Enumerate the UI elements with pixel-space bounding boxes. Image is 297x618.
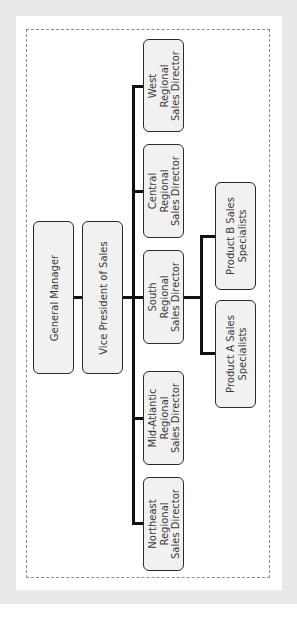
node-label-line-3: Sales Director [169, 51, 181, 121]
node-south-regional-sales-director: South Regional Sales Director [143, 250, 184, 344]
connector-central [132, 190, 143, 193]
connector-northeast [132, 522, 143, 525]
connector-producta [200, 352, 215, 355]
node-label-line-3: Sales Director [169, 156, 181, 226]
connector-midatlantic [132, 417, 143, 420]
node-label-line-1: Northeast [146, 499, 158, 548]
node-label-line-2: Specialists [236, 327, 248, 380]
node-northeast-regional-sales-director: Northeast Regional Sales Director [143, 477, 184, 571]
node-label-line-1: Mid-Atlantic [146, 388, 158, 447]
node-label-line-2: Regional [158, 502, 170, 545]
connector-productb [200, 235, 215, 238]
node-label-line-3: Sales Director [169, 383, 181, 453]
node-label: Vice President of Sales [97, 241, 109, 355]
connector-gm-vp [73, 296, 82, 299]
node-product-a-sales-specialists: Product A Sales Specialists [215, 300, 256, 408]
node-label: General Manager [48, 254, 60, 340]
node-central-regional-sales-director: Central Regional Sales Director [143, 144, 184, 238]
node-label-line-1: Product B Sales [224, 197, 236, 275]
connector-sub-trunk [200, 235, 203, 354]
connector-trunk [132, 85, 135, 525]
node-general-manager: General Manager [33, 221, 74, 374]
node-label-line-3: Sales Director [169, 489, 181, 559]
node-label-line-1: Product A Sales [224, 315, 236, 393]
node-label-line-2: Regional [158, 64, 170, 107]
node-vice-president-of-sales: Vice President of Sales [82, 221, 123, 374]
node-west-regional-sales-director: West Regional Sales Director [143, 39, 184, 132]
node-label-line-2: Regional [158, 169, 170, 212]
node-product-b-sales-specialists: Product B Sales Specialists [215, 182, 256, 290]
node-label-line-2: Regional [158, 396, 170, 439]
connector-west [132, 85, 143, 88]
node-mid-atlantic-regional-sales-director: Mid-Atlantic Regional Sales Director [143, 371, 184, 465]
node-label-line-2: Specialists [236, 209, 248, 262]
connector-south [132, 296, 143, 299]
node-label-line-1: West [146, 73, 158, 98]
node-label-line-2: Regional [158, 275, 170, 318]
node-label-line-3: Sales Director [169, 262, 181, 332]
node-label-line-1: Central [146, 173, 158, 209]
node-label-line-1: South [146, 282, 158, 311]
